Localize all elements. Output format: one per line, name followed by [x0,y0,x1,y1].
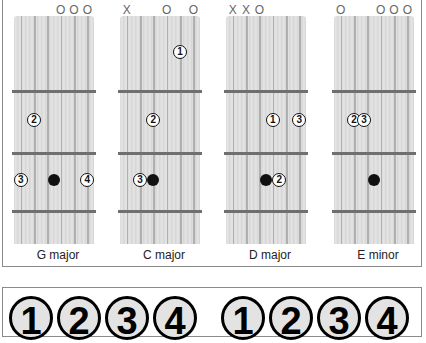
open-muted-markers: XXO [220,3,320,15]
finger-number-circle: 4 [365,296,409,340]
chord-diagram-g-major: OOO234G major [8,0,108,268]
open-string-marker: O [189,3,198,17]
open-string-marker: O [162,3,171,17]
open-muted-markers: OOO [8,3,108,15]
chord-diagram-c-major: XOO123C major [114,0,214,268]
fret-wire [12,210,96,213]
fret-wire [224,152,308,155]
fret-inlay-dot [368,174,380,186]
chord-diagram-e-minor: OOOO23E minor [328,0,426,268]
finger-number-marker: 4 [80,173,94,187]
fret-wire [332,152,416,155]
finger-number-circle: 4 [153,296,197,340]
fret-inlay-dot [48,174,60,186]
chord-name-label: C major [114,248,214,262]
fret-wire [118,90,202,93]
finger-number-marker: 2 [272,173,286,187]
finger-number-circle: 2 [57,296,101,340]
open-string-marker: O [56,3,65,17]
fretboard: 123 [120,16,200,244]
open-muted-markers: XOO [114,3,214,15]
fret-wire [118,152,202,155]
fret-wire [118,210,202,213]
muted-string-marker: X [242,3,250,17]
open-string-marker: O [376,3,385,17]
open-string-marker: O [403,3,412,17]
open-string-marker: O [255,3,264,17]
finger-number-legend: 12341234 [2,287,422,337]
finger-number-marker: 3 [357,113,371,127]
fretboard: 132 [226,16,306,244]
muted-string-marker: X [123,3,131,17]
chord-diagram-d-major: XXO132D major [220,0,320,268]
finger-number-circle: 3 [105,296,149,340]
fret-wire [224,210,308,213]
chord-name-label: E minor [328,248,426,262]
fret-wire [332,210,416,213]
fret-wire [224,90,308,93]
finger-number-marker: 3 [14,173,28,187]
fret-inlay-dot [260,174,272,186]
fret-wire [12,152,96,155]
finger-number-marker: 1 [173,45,187,59]
open-muted-markers: OOOO [328,3,426,15]
fretboard: 234 [14,16,94,244]
finger-number-marker: 3 [133,173,147,187]
open-string-marker: O [389,3,398,17]
open-string-marker: O [336,3,345,17]
finger-number-circle: 2 [269,296,313,340]
muted-string-marker: X [229,3,237,17]
fretboard: 23 [334,16,414,244]
chord-name-label: G major [8,248,108,262]
finger-number-marker: 3 [292,113,306,127]
finger-number-circle: 3 [317,296,361,340]
finger-number-marker: 1 [266,113,280,127]
finger-number-marker: 2 [27,113,41,127]
finger-number-circle: 1 [221,296,265,340]
chord-name-label: D major [220,248,320,262]
finger-number-marker: 2 [146,113,160,127]
fret-inlay-dot [147,174,159,186]
fret-wire [332,90,416,93]
fret-wire [12,90,96,93]
open-string-marker: O [69,3,78,17]
open-string-marker: O [83,3,92,17]
finger-number-circle: 1 [9,296,53,340]
